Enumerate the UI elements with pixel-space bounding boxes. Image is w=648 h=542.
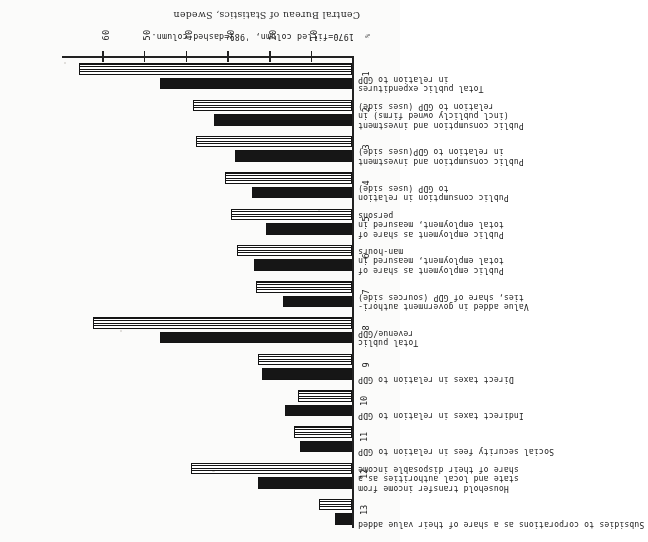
bar-1981: [194, 100, 353, 112]
category-label: Household transfer income from state and…: [354, 464, 628, 492]
category-number: 11: [359, 432, 369, 442]
bar-group: 1Total public expenditures in relation t…: [62, 57, 354, 91]
scan-speckle: [212, 471, 215, 472]
bar-1970: [283, 296, 352, 308]
bar-1970: [300, 441, 352, 453]
category-label: Public employment as share of total empl…: [354, 247, 628, 275]
bar-1970: [160, 332, 352, 344]
category-label: Direct taxes in relation to GDP: [354, 374, 628, 383]
bar-1970: [267, 223, 353, 235]
bar-1981: [237, 245, 352, 257]
bar-group: 8Total public revenue/GDP: [62, 311, 354, 345]
percent-unit-mark: %: [364, 34, 372, 38]
scan-speckle: [64, 62, 66, 64]
bar-1981: [319, 499, 352, 511]
bar-chart-plot-area: 102030405060 % 1Total public expenditure…: [62, 56, 354, 528]
category-label: Social security fees in relation to GDP: [354, 447, 648, 456]
category-label: Indirect taxes in relation to GDP: [354, 411, 628, 420]
bar-1970: [214, 114, 352, 126]
bar-1970: [252, 187, 352, 199]
bar-group: 7Value added in government authori- ties…: [62, 275, 354, 309]
category-number: 9: [361, 362, 371, 367]
category-label: Public employment as share of total empl…: [354, 210, 628, 238]
bar-group: 10Indirect taxes in relation to GDP: [62, 384, 354, 418]
bar-1981: [225, 172, 352, 184]
bar-group: 13Subsidies to corporations as a share o…: [62, 493, 354, 527]
scan-speckle: [318, 210, 320, 211]
category-label: Value added in government authori- ties,…: [354, 292, 628, 311]
category-number: 10: [359, 396, 369, 406]
category-label: Total public revenue/GDP: [354, 329, 628, 348]
bar-1981: [196, 136, 352, 148]
bar-group: 6Public employment as share of total emp…: [62, 239, 354, 273]
scan-speckle: [120, 330, 122, 332]
bar-group: 4Public consumption in relation to GDP (…: [62, 166, 354, 200]
bar-group: 3Public consumption and investment in re…: [62, 130, 354, 164]
bar-1981: [79, 63, 352, 75]
category-label: Total public expenditures in relation to…: [354, 74, 628, 93]
category-label: Public consumption and investment in rel…: [354, 147, 628, 166]
bar-1970: [335, 513, 352, 525]
bar-group: 5Public employment as share of total emp…: [62, 202, 354, 236]
bar-1981: [191, 463, 352, 475]
bar-group: 12Household transfer income from state a…: [62, 456, 354, 490]
source-note: Central Bureau of Statistics, Sweden: [173, 10, 360, 21]
bar-1981: [258, 354, 352, 366]
category-label: Subsidies to corporations as a share of …: [354, 520, 648, 529]
bar-1981: [298, 390, 352, 402]
legend-note: 1970=filled column, '981=dashed column.: [151, 32, 354, 42]
bar-1970: [262, 368, 352, 380]
category-label: Public consumption in relation to GDP (u…: [354, 183, 628, 202]
bar-1970: [258, 477, 352, 489]
bar-group: 2Public consumption and investment (incl…: [62, 93, 354, 127]
category-label: Public consumption and investment (incl …: [354, 101, 628, 129]
bar-1981: [93, 317, 352, 329]
bar-1981: [231, 209, 352, 221]
bar-1981: [294, 426, 352, 438]
bar-1970: [235, 150, 352, 162]
value-axis-tick-label: 60: [101, 29, 111, 40]
bar-1970: [254, 259, 352, 271]
category-number: 13: [359, 505, 369, 515]
bar-1970: [285, 405, 352, 417]
bar-1970: [160, 78, 352, 90]
bar-group: 9Direct taxes in relation to GDP: [62, 347, 354, 381]
bar-1981: [256, 281, 352, 293]
bar-group: 11Social security fees in relation to GD…: [62, 420, 354, 454]
